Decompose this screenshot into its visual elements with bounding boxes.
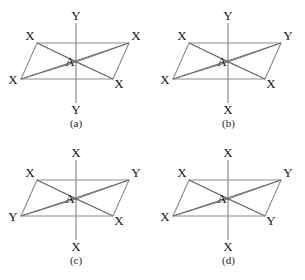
ligand-top-left-b: X <box>177 28 187 43</box>
ligand-bottom-right-c: X <box>114 213 124 228</box>
ligand-top-left-c: X <box>25 165 35 180</box>
ligand-bottom-left-a: X <box>8 72 18 87</box>
cross-diagonal-2-c <box>21 180 129 216</box>
diagram-b: Y X X Y X X A <box>152 6 305 119</box>
panel-a: Y Y X X X X A (a) <box>0 6 152 143</box>
caption-d: (d) <box>152 254 305 267</box>
ligand-top-right-d: Y <box>283 165 293 180</box>
ligand-top-right-a: X <box>131 28 141 43</box>
ligand-top-axial-a: Y <box>71 8 81 23</box>
panel-c: X X X Y Y X A (c) <box>0 143 152 280</box>
diagram-a: Y Y X X X X A <box>0 6 152 119</box>
ligand-bottom-axial-c: X <box>71 239 81 254</box>
ligand-top-axial-b: Y <box>223 8 233 23</box>
octahedral-isomers-figure: Y Y X X X X A (a) <box>0 0 305 280</box>
ligand-bottom-right-a: X <box>114 76 124 91</box>
center-atom-c: A <box>65 191 75 206</box>
panel-grid: Y Y X X X X A (a) <box>0 6 305 280</box>
ligand-top-left-d: X <box>177 165 187 180</box>
ligand-bottom-right-b: X <box>266 76 276 91</box>
ligand-bottom-axial-d: X <box>223 239 233 254</box>
caption-b: (b) <box>152 117 305 130</box>
caption-c: (c) <box>0 254 152 267</box>
cross-diagonal-2-a <box>21 43 129 79</box>
ligand-bottom-left-d: X <box>160 209 170 224</box>
ligand-bottom-right-d: Y <box>266 213 276 228</box>
center-atom-b: A <box>217 54 227 69</box>
ligand-bottom-axial-a: Y <box>71 102 81 117</box>
ligand-bottom-left-c: Y <box>8 209 18 224</box>
ligand-top-left-a: X <box>25 28 35 43</box>
diagram-d: X X X Y X Y A <box>152 143 305 256</box>
center-atom-a: A <box>65 54 75 69</box>
ligand-bottom-axial-b: X <box>223 102 233 117</box>
ligand-top-right-c: Y <box>131 165 141 180</box>
ligand-bottom-left-b: X <box>160 72 170 87</box>
diagram-c: X X X Y Y X A <box>0 143 152 256</box>
ligand-top-right-b: Y <box>283 28 293 43</box>
panel-b: Y X X Y X X A (b) <box>152 6 305 143</box>
ligand-top-axial-d: X <box>223 145 233 160</box>
cross-diagonal-2-d <box>173 180 281 216</box>
cross-diagonal-2-b <box>173 43 281 79</box>
panel-d: X X X Y X Y A (d) <box>152 143 305 280</box>
caption-a: (a) <box>0 117 152 130</box>
center-atom-d: A <box>217 191 227 206</box>
ligand-top-axial-c: X <box>71 145 81 160</box>
